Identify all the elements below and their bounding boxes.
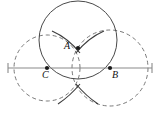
arc-from-c-lower xyxy=(58,84,80,104)
solid-circle-group xyxy=(39,1,117,79)
point-c-label: C xyxy=(42,70,49,80)
point-a-dot xyxy=(76,46,80,50)
arc-from-b-lower xyxy=(76,84,98,104)
geometry-figure: A C B xyxy=(0,0,160,118)
point-b-label: B xyxy=(112,70,118,80)
figure-canvas xyxy=(0,0,160,118)
point-a-label: A xyxy=(64,41,70,51)
main-solid-circle xyxy=(39,1,117,79)
arc-from-b-upper xyxy=(76,31,104,53)
